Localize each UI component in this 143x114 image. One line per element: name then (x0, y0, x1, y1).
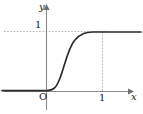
y-axis-label: y (39, 2, 45, 12)
origin-label: O (39, 92, 47, 102)
sigmoid-function-figure: y x O 1 1 (0, 0, 143, 114)
x-axis-tick-label-1: 1 (99, 93, 105, 103)
sigmoid-curve (2, 32, 141, 91)
y-axis-tick-label-1: 1 (35, 20, 41, 30)
plot-canvas (0, 0, 143, 114)
x-axis-label: x (131, 92, 137, 102)
